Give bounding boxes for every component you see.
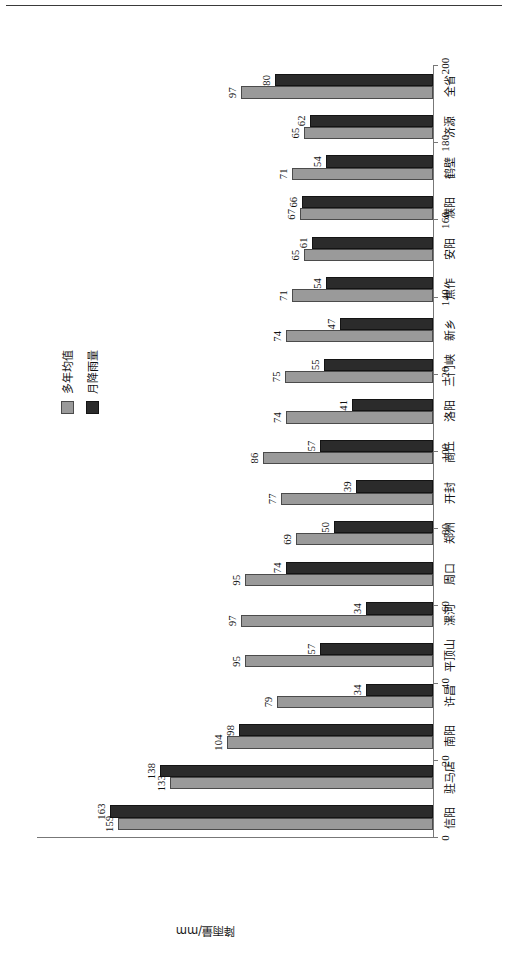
bar-monthly-rainfall [110,806,433,818]
bar-multi-year-average [296,533,433,545]
bar-value-label: 54 [312,156,323,167]
category-label: 开封 [441,482,457,504]
bar-value-label: 67 [286,209,297,220]
category-label: 许昌 [441,685,457,707]
bar-value-label: 69 [282,534,293,545]
page-top-rule [6,5,502,6]
bar-value-label: 104 [213,734,224,750]
bar-monthly-rainfall [239,724,433,736]
bar-value-label: 39 [342,481,353,492]
bar-value-label: 55 [310,359,321,370]
bar-multi-year-average [286,411,433,423]
bar-value-label: 66 [288,197,299,208]
legend-label-avg: 多年均值 [59,350,75,394]
bar-monthly-rainfall [324,359,433,371]
chart-page: 降雨量/mm 多年均值 月降雨量 02040608010012014016018… [0,0,508,969]
category-label: 周口 [441,563,457,585]
bar-value-label: 34 [352,684,363,695]
legend-swatch-avg-icon [61,401,74,414]
y-axis-tick [433,65,438,66]
y-axis-tick [433,760,438,761]
bar-value-label: 71 [278,290,289,301]
bar-value-label: 97 [227,87,238,98]
bar-monthly-rainfall [366,684,433,696]
bar-value-label: 95 [231,656,242,667]
y-axis-tick [433,219,438,220]
bar-value-label: 79 [263,696,274,707]
bar-value-label: 62 [296,115,307,126]
bar-value-label: 86 [249,453,260,464]
category-label: 漯河 [441,604,457,626]
bar-multi-year-average [292,168,433,180]
legend-label-monthly: 月降雨量 [84,350,100,394]
bar-value-label: 65 [290,128,301,139]
category-label: 焦作 [441,278,457,300]
plot-area [37,66,433,838]
bar-value-label: 75 [271,371,282,382]
bar-monthly-rainfall [320,643,433,655]
bar-value-label: 80 [261,75,272,86]
bar-value-label: 57 [306,440,317,451]
bar-value-label: 74 [272,562,283,573]
bar-value-label: 98 [225,725,236,736]
bar-multi-year-average [241,615,433,627]
y-axis-tick [433,451,438,452]
category-label: 郑州 [441,522,457,544]
y-axis-tick [433,374,438,375]
category-label: 洛阳 [441,400,457,422]
bar-value-label: 47 [326,319,337,330]
bar-value-label: 71 [278,168,289,179]
bar-multi-year-average [118,818,433,830]
x-axis-line [433,66,434,838]
y-axis-tick [433,605,438,606]
y-axis-tick [433,683,438,684]
category-label: 驻马店 [441,761,457,794]
bar-monthly-rainfall [320,440,433,452]
bar-value-label: 41 [338,400,349,411]
category-label: 濮阳 [441,197,457,219]
bar-multi-year-average [245,655,433,667]
bar-value-label: 97 [227,615,238,626]
bar-multi-year-average [281,493,433,505]
chart-legend: 多年均值 月降雨量 [59,350,109,414]
bar-multi-year-average [285,371,434,383]
bar-multi-year-average [170,777,433,789]
bar-monthly-rainfall [275,74,433,86]
bar-monthly-rainfall [352,399,433,411]
bar-multi-year-average [304,127,433,139]
bar-value-label: 57 [306,644,317,655]
category-label: 南阳 [441,725,457,747]
bar-monthly-rainfall [286,562,433,574]
category-label: 信阳 [441,807,457,829]
bar-value-label: 34 [352,603,363,614]
bar-chart-figure: 降雨量/mm 多年均值 月降雨量 02040608010012014016018… [19,34,489,934]
bar-value-label: 61 [298,237,309,248]
bar-multi-year-average [227,736,433,748]
bar-value-label: 95 [231,575,242,586]
y-axis-tick [433,528,438,529]
category-label: 商丘 [441,441,457,463]
category-label: 济源 [441,116,457,138]
bar-value-label: 77 [267,493,278,504]
category-label: 鹤壁 [441,157,457,179]
bar-monthly-rainfall [160,765,433,777]
bar-monthly-rainfall [312,237,433,249]
bar-multi-year-average [263,452,433,464]
bar-multi-year-average [286,330,433,342]
category-label: 安阳 [441,238,457,260]
bar-multi-year-average [304,249,433,261]
bar-monthly-rainfall [366,602,433,614]
y-axis-tick-label: 0 [439,835,451,841]
bar-multi-year-average [241,86,433,98]
y-axis-tick [433,142,438,143]
legend-swatch-monthly-icon [86,401,99,414]
bar-value-label: 163 [96,803,107,819]
bar-monthly-rainfall [334,521,433,533]
bar-value-label: 65 [290,249,301,260]
bar-value-label: 74 [272,412,283,423]
bar-value-label: 74 [272,331,283,342]
category-label: 平顶山 [441,639,457,672]
bar-monthly-rainfall [356,480,433,492]
rotated-figure-wrapper: 降雨量/mm 多年均值 月降雨量 02040608010012014016018… [19,34,489,934]
y-axis-tick [433,297,438,298]
